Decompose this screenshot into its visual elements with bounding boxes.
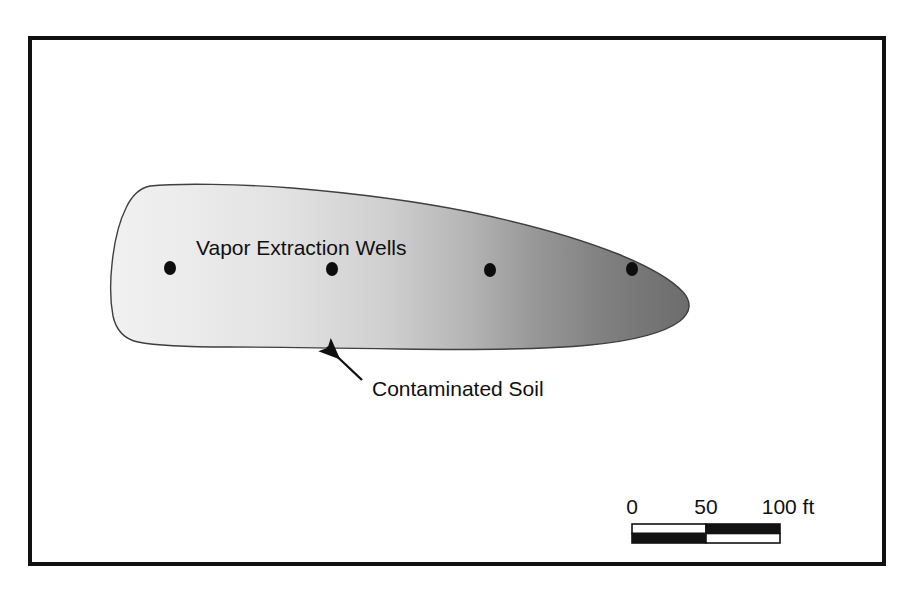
well-4[interactable]	[626, 262, 638, 276]
scale-tick-0: 0	[626, 495, 638, 518]
well-2[interactable]	[326, 262, 338, 276]
site-plan-map: Vapor Extraction Wells Contaminated Soil…	[0, 0, 909, 595]
scale-segment-top-left	[632, 524, 706, 534]
scale-tick-50: 50	[694, 495, 717, 518]
scale-segment-bottom-left	[632, 534, 706, 544]
figure-root: Vapor Extraction Wells Contaminated Soil…	[0, 0, 909, 595]
well-3[interactable]	[484, 263, 496, 277]
well-1[interactable]	[164, 261, 176, 275]
scale-tick-100: 100 ft	[762, 495, 815, 518]
scale-segment-bottom-right	[706, 534, 780, 544]
contaminated-soil-label: Contaminated Soil	[372, 377, 544, 400]
scale-segment-top-right	[706, 524, 780, 534]
vapor-extraction-wells-label: Vapor Extraction Wells	[196, 236, 406, 259]
